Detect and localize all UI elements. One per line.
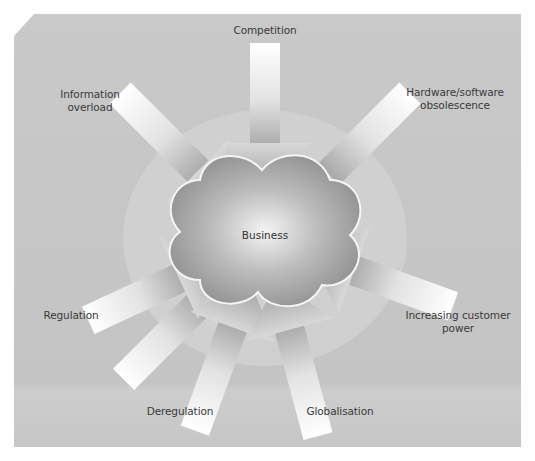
label-globalisation: Globalisation bbox=[300, 405, 380, 418]
center-label-business: Business bbox=[235, 229, 295, 241]
label-deregulation: Deregulation bbox=[140, 405, 220, 418]
label-regulation: Regulation bbox=[36, 309, 106, 322]
label-competition: Competition bbox=[230, 24, 300, 37]
diagram-canvas: Business Competition Hardware/software o… bbox=[0, 0, 535, 461]
label-hardware-software-obsolescence: Hardware/software obsolescence bbox=[400, 86, 510, 112]
label-information-overload: Information overload bbox=[50, 88, 130, 114]
label-increasing-customer-power: Increasing customer power bbox=[398, 309, 518, 335]
